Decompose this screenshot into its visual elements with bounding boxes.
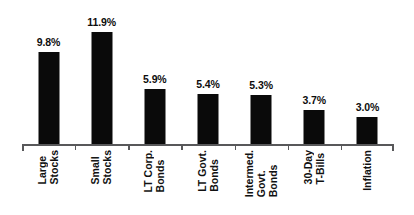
bar[interactable] xyxy=(197,94,218,145)
bar-chart: LargeStocksSmallStocksLT Corp.BondsLT Go… xyxy=(0,0,414,215)
bar[interactable] xyxy=(251,95,272,145)
x-axis-tick xyxy=(75,145,76,150)
bar-value-label: 5.9% xyxy=(143,73,167,85)
category-label: 30-DayT-Bills xyxy=(303,150,326,184)
bar-group xyxy=(22,0,75,145)
bar-group xyxy=(341,0,394,145)
bar-value-label: 9.8% xyxy=(37,36,61,48)
plot-area xyxy=(0,0,414,145)
bar-group xyxy=(181,0,234,145)
category-label: LT Govt.Bonds xyxy=(197,150,220,192)
bar[interactable] xyxy=(144,89,165,145)
category-label-line: Intermed. xyxy=(244,150,255,197)
x-axis-tick xyxy=(235,145,236,150)
category-label-line: Bonds xyxy=(155,150,166,192)
category-label: SmallStocks xyxy=(90,150,113,184)
category-label-line: Govt. xyxy=(256,150,267,197)
category-label: Intermed.Govt.Bonds xyxy=(244,150,279,197)
category-label-line: 30-Day xyxy=(303,150,314,184)
category-label-line: Small xyxy=(90,150,101,184)
category-label-row: LargeStocksSmallStocksLT Corp.BondsLT Go… xyxy=(0,150,414,215)
x-axis-line xyxy=(22,144,394,146)
bar-value-label: 5.4% xyxy=(196,78,220,90)
x-axis-tick xyxy=(341,145,342,150)
category-label-line: LT Govt. xyxy=(197,150,208,192)
x-axis-tick xyxy=(181,145,182,150)
category-label-line: Bonds xyxy=(268,150,279,197)
category-label-line: LT Corp. xyxy=(143,150,154,192)
category-label-line: T-Bills xyxy=(315,150,326,184)
bar-value-label: 5.3% xyxy=(249,79,273,91)
category-label-line: Large xyxy=(37,150,48,184)
category-label: Inflation xyxy=(362,150,373,191)
category-label-line: Inflation xyxy=(362,150,373,191)
bar-value-label: 3.7% xyxy=(303,94,327,106)
bar[interactable] xyxy=(304,110,325,145)
category-label: LT Corp.Bonds xyxy=(143,150,166,192)
category-label-line: Bonds xyxy=(209,150,220,192)
category-label-line: Stocks xyxy=(49,150,60,184)
category-label-line: Stocks xyxy=(102,150,113,184)
x-axis-tick xyxy=(288,145,289,150)
bar[interactable] xyxy=(91,32,112,145)
x-axis-tick xyxy=(128,145,129,150)
bar-value-label: 11.9% xyxy=(87,16,116,28)
bar-group xyxy=(235,0,288,145)
bar[interactable] xyxy=(38,52,59,145)
bar-group xyxy=(288,0,341,145)
bar-value-label: 3.0% xyxy=(356,101,380,113)
bar[interactable] xyxy=(357,117,378,146)
category-label: LargeStocks xyxy=(37,150,60,184)
